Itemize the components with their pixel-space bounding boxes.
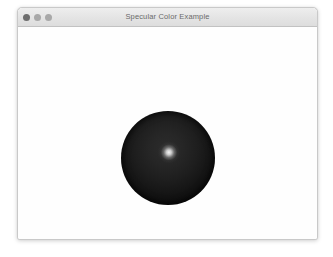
desktop-background: Specular Color Example (0, 0, 333, 257)
minimize-traffic-light-icon[interactable] (34, 14, 41, 21)
window-titlebar[interactable]: Specular Color Example (18, 8, 317, 27)
render-canvas (18, 27, 317, 239)
close-traffic-light-icon[interactable] (23, 14, 30, 21)
specular-sphere (121, 111, 215, 205)
application-window: Specular Color Example (17, 7, 318, 240)
window-controls (23, 8, 52, 26)
maximize-traffic-light-icon[interactable] (45, 14, 52, 21)
window-title: Specular Color Example (18, 8, 317, 26)
